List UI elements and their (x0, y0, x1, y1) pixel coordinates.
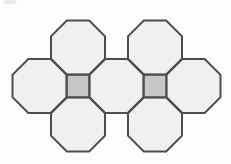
square-tile-2 (144, 75, 166, 97)
octagon-tile-6 (51, 98, 105, 152)
octagon-tile-7 (128, 98, 182, 152)
tessellation-canvas (0, 0, 231, 164)
square-tile-1 (67, 75, 89, 97)
tessellation-figure (0, 0, 231, 164)
scan-artifact-smudge (3, 0, 17, 4)
